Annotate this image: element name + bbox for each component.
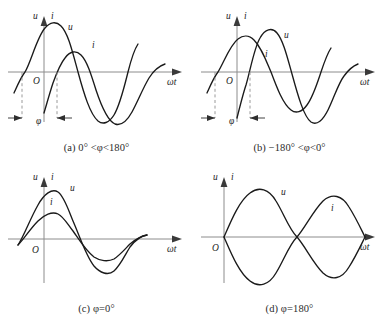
voltage-wave-c (18, 191, 147, 274)
x-axis-arrowhead-b (365, 69, 375, 76)
y-axis-label-u-a: u (33, 11, 38, 21)
origin-label-d: O (212, 243, 219, 253)
phase-dim-arrow-left-a (14, 115, 22, 121)
panel-d-caption: (d) φ=180° (193, 303, 386, 314)
panel-b-caption: (b) −180° <φ<0° (193, 142, 386, 153)
y-axis-label-u-b: u (226, 11, 231, 21)
curve-label-u-b: u (284, 30, 289, 40)
phase-dim-arrow-left-b (207, 115, 215, 121)
panel-d: u i ωt O u i (d) φ=180° (193, 161, 386, 322)
panel-c-caption: (c) φ=0° (0, 303, 193, 314)
curve-label-i-b: i (265, 49, 268, 59)
origin-label-c: O (32, 245, 39, 255)
origin-label-a: O (33, 76, 40, 86)
y-axis-label-i-b: i (244, 11, 247, 21)
panel-c: u i ωt O u i (c) φ=0° (0, 161, 193, 322)
y-axis-label-i-a: i (51, 11, 54, 21)
x-axis-arrowhead-a (172, 69, 182, 76)
origin-label-b: O (226, 76, 233, 86)
panel-b: u i ωt O u i φ (b) −180° <φ<0° (193, 0, 386, 161)
phase-label-b: φ (229, 116, 234, 126)
curve-label-i-d: i (331, 203, 334, 213)
phase-dim-arrow-right-b (250, 115, 258, 121)
y-axis-label-u-d: u (213, 172, 218, 182)
y-axis-arrowhead-a (41, 16, 48, 26)
y-axis-arrowhead-b (234, 16, 241, 26)
voltage-wave-a (14, 23, 138, 123)
x-axis-label-d: ωt (360, 242, 370, 252)
current-wave-a (44, 52, 165, 125)
x-axis-label-c: ωt (167, 244, 177, 254)
x-axis-arrowhead-c (172, 236, 182, 243)
curve-label-u-d: u (281, 187, 286, 197)
panel-a-plot: u i ωt O u i φ (0, 0, 193, 133)
y-axis-label-u-c: u (33, 172, 38, 182)
y-axis-arrowhead-c (41, 177, 48, 187)
panel-d-plot: u i ωt O u i (193, 161, 386, 294)
phase-label-a: φ (36, 116, 41, 126)
x-axis-arrowhead-d (365, 234, 375, 241)
current-wave-d (224, 196, 365, 285)
voltage-wave-d (224, 189, 365, 278)
panel-c-plot: u i ωt O u i (0, 161, 193, 294)
current-wave-b (207, 36, 331, 112)
x-axis-label-b: ωt (360, 77, 370, 87)
x-axis-label-a: ωt (167, 77, 177, 87)
phase-dim-arrow-right-a (57, 115, 65, 121)
phase-relationship-figure: u i ωt O u i φ (a) 0° <φ<180° u (0, 0, 387, 323)
voltage-wave-b (237, 30, 358, 124)
panel-b-plot: u i ωt O u i φ (193, 0, 386, 133)
curve-label-u-a: u (68, 22, 73, 32)
curve-label-u-c: u (70, 183, 75, 193)
panel-a: u i ωt O u i φ (a) 0° <φ<180° (0, 0, 193, 161)
panel-a-caption: (a) 0° <φ<180° (0, 142, 193, 153)
curve-label-i-a: i (92, 40, 95, 50)
y-axis-label-i-d: i (231, 172, 234, 182)
curve-label-i-c: i (50, 197, 53, 207)
y-axis-label-i-c: i (51, 172, 54, 182)
y-axis-arrowhead-d (221, 177, 228, 187)
